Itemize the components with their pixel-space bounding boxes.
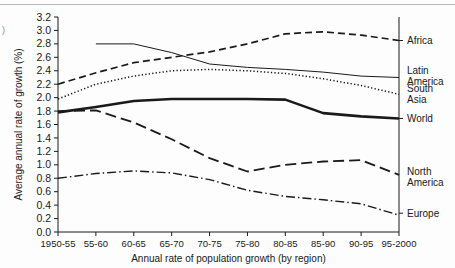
series-line-north-america bbox=[58, 110, 399, 174]
x-axis-title: Annual rate of population growth (by reg… bbox=[131, 253, 326, 264]
legend-label: Europe bbox=[407, 208, 440, 219]
y-tick-label: 0.8 bbox=[36, 172, 51, 184]
legend-label: America bbox=[407, 177, 444, 188]
y-tick-label: 1.2 bbox=[36, 145, 51, 157]
legend-label: North bbox=[407, 166, 431, 177]
y-axis-title: Average annual rate of growth (%) bbox=[13, 48, 24, 200]
y-tick-label: 2.8 bbox=[36, 37, 51, 49]
x-tick-label: 60-65 bbox=[122, 238, 146, 249]
x-tick-label: 1950-55 bbox=[41, 238, 76, 249]
y-tick-label: 3.2 bbox=[36, 11, 51, 23]
y-tick-label: 0.0 bbox=[36, 226, 51, 238]
x-tick-label: 85-90 bbox=[311, 238, 335, 249]
y-tick-label: 1.0 bbox=[36, 158, 51, 170]
series-line-europe bbox=[58, 171, 399, 215]
y-tick-label: 2.0 bbox=[36, 91, 51, 103]
legend-label: Asia bbox=[407, 94, 427, 105]
y-tick-label: 2.2 bbox=[36, 78, 51, 90]
series-line-africa bbox=[58, 32, 399, 84]
legend-item-world: World bbox=[407, 113, 433, 124]
series-line-latin-america bbox=[96, 44, 399, 78]
y-tick-label: 1.4 bbox=[36, 132, 51, 144]
series-line-south-asia bbox=[58, 69, 399, 99]
legend-label: Africa bbox=[407, 35, 433, 46]
y-tick-label: 2.6 bbox=[36, 51, 51, 63]
x-tick-label: 80-85 bbox=[273, 238, 297, 249]
x-tick-label: 55-60 bbox=[84, 238, 108, 249]
legend-item-north-america: NorthAmerica bbox=[407, 166, 444, 188]
y-tick-label: 1.8 bbox=[36, 105, 51, 117]
chart-figure: ) 0.00.20.40.60.81.01.21.41.61.82.02.22.… bbox=[0, 0, 455, 268]
y-tick-label: 0.2 bbox=[36, 212, 51, 224]
y-tick-label: 1.6 bbox=[36, 118, 51, 130]
y-tick-label: 0.6 bbox=[36, 185, 51, 197]
x-tick-label: 95-2000 bbox=[382, 238, 417, 249]
x-tick-label: 65-70 bbox=[160, 238, 184, 249]
legend-label: South bbox=[407, 83, 433, 94]
y-tick-label: 2.4 bbox=[36, 64, 51, 76]
x-tick-label: 90-95 bbox=[349, 238, 373, 249]
legend-label: World bbox=[407, 113, 433, 124]
series-line-world bbox=[58, 99, 399, 119]
legend-label: Latin bbox=[407, 65, 429, 76]
legend-item-africa: Africa bbox=[407, 35, 433, 46]
line-chart-plot: 0.00.20.40.60.81.01.21.41.61.82.02.22.42… bbox=[0, 0, 455, 268]
legend-item-europe: Europe bbox=[407, 208, 440, 219]
y-tick-label: 3.0 bbox=[36, 24, 51, 36]
x-tick-label: 75-80 bbox=[235, 238, 259, 249]
y-tick-label: 0.4 bbox=[36, 199, 51, 211]
x-tick-label: 70-75 bbox=[197, 238, 221, 249]
legend-item-south-asia: SouthAsia bbox=[407, 83, 433, 105]
